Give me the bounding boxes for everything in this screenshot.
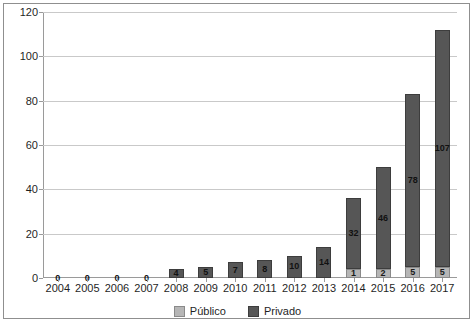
bar-value-label: 32 [348, 229, 358, 238]
y-tick-mark [39, 278, 43, 279]
legend-item-pblico[interactable]: Público [174, 306, 226, 317]
bar-value-label: 5 [203, 268, 208, 277]
y-tick-label: 40 [4, 184, 38, 195]
x-tick-mark [206, 278, 207, 282]
x-tick-label: 2014 [341, 282, 365, 294]
bar-group[interactable]: 5 [198, 267, 213, 278]
bar-segment-publico[interactable]: 2 [376, 269, 391, 278]
bars-layer: 0000457810143214627851075 [43, 12, 457, 278]
x-tick-mark [87, 278, 88, 282]
x-tick-mark [442, 278, 443, 282]
bar-group[interactable]: 321 [346, 198, 361, 278]
bar-group[interactable]: 10 [287, 256, 302, 278]
bar-value-label: 8 [262, 265, 267, 274]
bar-value-label: 46 [378, 214, 388, 223]
x-tick-label: 2015 [371, 282, 395, 294]
bar-value-label: 14 [319, 258, 329, 267]
legend-label: Público [190, 306, 226, 317]
bar-group[interactable]: 14 [316, 247, 331, 278]
x-tick-mark [58, 278, 59, 282]
x-tick-mark [265, 278, 266, 282]
x-tick-label: 2012 [282, 282, 306, 294]
bar-value-label: 4 [174, 269, 179, 278]
x-tick-mark [235, 278, 236, 282]
bar-value-label: 5 [410, 268, 415, 277]
bar-group[interactable]: 462 [376, 167, 391, 278]
y-tick-label: 0 [4, 273, 38, 284]
bar-value-label: 5 [440, 268, 445, 277]
bar-group[interactable]: 1075 [435, 30, 450, 278]
bar-segment-publico[interactable]: 5 [435, 267, 450, 278]
legend-label: Privado [264, 306, 301, 317]
bar-segment-privado[interactable]: 10 [287, 256, 302, 278]
bar-group[interactable]: 8 [257, 260, 272, 278]
plot-area: 0000457810143214627851075 [43, 12, 457, 278]
x-tick-label: 2017 [430, 282, 454, 294]
x-tick-label: 2010 [223, 282, 247, 294]
y-tick-label: 60 [4, 140, 38, 151]
x-tick-label: 2016 [400, 282, 424, 294]
y-tick-label: 80 [4, 95, 38, 106]
bar-segment-privado[interactable]: 5 [198, 267, 213, 278]
x-tick-mark [354, 278, 355, 282]
bar-value-label: 10 [289, 262, 299, 271]
bar-segment-publico[interactable]: 1 [346, 269, 361, 278]
chart-legend: PúblicoPrivado [0, 306, 475, 317]
x-tick-mark [324, 278, 325, 282]
y-tick-label: 120 [4, 7, 38, 18]
legend-swatch-icon [174, 306, 185, 317]
y-tick-label: 20 [4, 228, 38, 239]
x-tick-mark [147, 278, 148, 282]
y-tick-label: 100 [4, 51, 38, 62]
x-tick-mark [383, 278, 384, 282]
x-tick-label: 2009 [193, 282, 217, 294]
bar-group[interactable]: 4 [169, 269, 184, 278]
x-tick-label: 2011 [253, 282, 277, 294]
bar-segment-privado[interactable]: 46 [376, 167, 391, 269]
x-tick-label: 2004 [46, 282, 70, 294]
x-tick-label: 2007 [134, 282, 158, 294]
bar-segment-privado[interactable]: 107 [435, 30, 450, 267]
bar-segment-privado[interactable]: 32 [346, 198, 361, 269]
bar-value-label: 107 [435, 144, 450, 153]
bar-group[interactable]: 785 [405, 94, 420, 278]
chart-container: 020406080100120 000045781014321462785107… [0, 0, 475, 330]
bar-value-label: 78 [408, 176, 418, 185]
x-tick-label: 2005 [75, 282, 99, 294]
bar-value-label: 7 [233, 266, 238, 275]
legend-swatch-icon [248, 306, 259, 317]
bar-segment-publico[interactable]: 5 [405, 267, 420, 278]
x-tick-label: 2006 [105, 282, 129, 294]
y-axis-labels: 020406080100120 [0, 12, 38, 278]
bar-value-label: 1 [351, 269, 356, 278]
x-tick-label: 2008 [164, 282, 188, 294]
bar-segment-privado[interactable]: 14 [316, 247, 331, 278]
bar-group[interactable]: 7 [228, 262, 243, 278]
bar-segment-privado[interactable]: 78 [405, 94, 420, 267]
x-tick-mark [176, 278, 177, 282]
x-axis-labels: 2004200520062007200820092010201120122013… [43, 282, 457, 298]
bar-segment-privado[interactable]: 4 [169, 269, 184, 278]
x-tick-mark [294, 278, 295, 282]
bar-value-label: 2 [381, 269, 386, 278]
x-tick-label: 2013 [312, 282, 336, 294]
bar-segment-privado[interactable]: 8 [257, 260, 272, 278]
legend-item-privado[interactable]: Privado [248, 306, 301, 317]
x-tick-mark [117, 278, 118, 282]
x-tick-mark [413, 278, 414, 282]
bar-segment-privado[interactable]: 7 [228, 262, 243, 278]
